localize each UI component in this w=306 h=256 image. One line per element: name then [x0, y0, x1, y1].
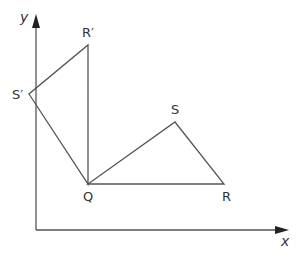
point-label-s: S	[171, 102, 179, 117]
y-axis-arrow-icon	[32, 14, 40, 28]
point-label-q: Q	[83, 189, 93, 204]
x-axis-label: x	[280, 233, 290, 249]
triangle-qrs	[88, 122, 224, 184]
y-axis-label: y	[19, 9, 29, 25]
point-label-r-prime: R′	[82, 25, 94, 40]
triangle-qr-prime-s-prime	[29, 45, 88, 184]
axes	[36, 22, 280, 230]
point-label-r: R	[222, 189, 231, 204]
point-label-s-prime: S′	[12, 87, 23, 102]
diagram-canvas: y x R′ S′ Q S R	[0, 0, 306, 256]
